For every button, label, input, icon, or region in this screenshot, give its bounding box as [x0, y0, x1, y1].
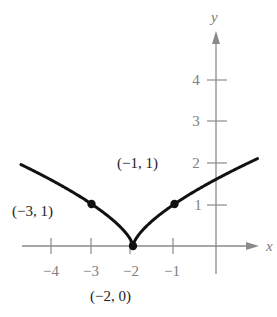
- y-axis-label: y: [209, 9, 218, 25]
- point-label: (−3, 1): [12, 203, 53, 220]
- x-axis-arrow-icon: [246, 242, 259, 250]
- y-tick-label: 3: [192, 113, 200, 129]
- point-label: (−2, 0): [90, 288, 131, 305]
- x-axis-label: x: [265, 238, 273, 254]
- point-marker: [87, 200, 95, 208]
- graph: x y −4 −3 −2 −1 1 2 3 4 (−3, 1) (−2, 0) …: [0, 0, 277, 317]
- y-axis-arrow-icon: [212, 31, 220, 44]
- x-tick-label: −2: [123, 263, 139, 279]
- x-tick-label: −4: [43, 263, 59, 279]
- x-tick-label: −3: [83, 263, 99, 279]
- y-ticks: [207, 80, 227, 205]
- y-tick-label: 4: [192, 72, 200, 88]
- y-tick-label: 1: [194, 197, 202, 213]
- point-label: (−1, 1): [117, 155, 158, 172]
- x-tick-label: −1: [164, 263, 180, 279]
- function-curve: [21, 159, 258, 246]
- point-marker: [170, 200, 178, 208]
- point-marker: [129, 242, 137, 250]
- y-tick-label: 2: [192, 155, 200, 171]
